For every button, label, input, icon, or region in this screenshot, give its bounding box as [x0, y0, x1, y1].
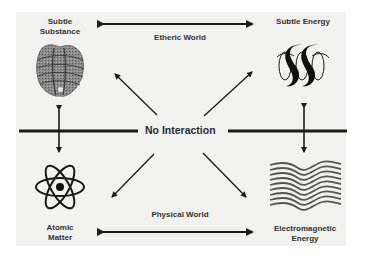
- node-label-subtle-substance: Subtle Substance: [33, 17, 87, 37]
- label-line: Substance: [33, 27, 87, 37]
- atom-icon: [36, 162, 84, 213]
- etheric-world-label: Etheric World: [140, 33, 220, 43]
- node-label-electromagnetic-energy: Electromagnetic Energy: [263, 224, 347, 244]
- helix-spiral-icon: [277, 45, 329, 87]
- diagonal-arrow-top-left: [115, 74, 157, 115]
- diagonal-arrow-top-right: [204, 72, 252, 116]
- label-line: Electromagnetic: [263, 224, 347, 234]
- physical-world-label: Physical World: [140, 210, 220, 220]
- label-line: Subtle Energy: [270, 17, 336, 27]
- no-interaction-label: No Interaction: [145, 124, 216, 136]
- textured-sphere-icon: [37, 45, 84, 96]
- node-label-subtle-energy: Subtle Energy: [270, 17, 336, 27]
- diagonal-arrow-bottom-left: [112, 154, 154, 197]
- label-line: Subtle: [33, 17, 87, 27]
- diagonal-arrow-bottom-right: [203, 153, 246, 197]
- waves-icon: [270, 161, 341, 210]
- label-line: Matter: [33, 233, 87, 243]
- label-line: Atomic: [33, 223, 87, 233]
- node-label-atomic-matter: Atomic Matter: [33, 223, 87, 243]
- label-line: Energy: [263, 234, 347, 244]
